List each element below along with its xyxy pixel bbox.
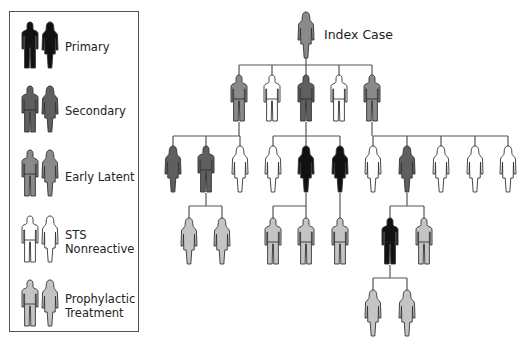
person-male-prophylactic-icon [298, 218, 314, 264]
tree-connectors [173, 58, 508, 290]
person-female-nonreactive-icon [232, 146, 248, 192]
person-female-primary-icon [298, 146, 314, 192]
person-female-nonreactive-icon [467, 146, 483, 192]
person-male-prophylactic-icon [416, 218, 432, 264]
person-male-prophylactic-icon [332, 218, 348, 264]
person-male-early-latent-icon [364, 75, 380, 121]
person-female-nonreactive-icon [500, 146, 516, 192]
legend-item-early-latent: Early Latent [10, 144, 138, 204]
person-male-nonreactive-icon [331, 75, 347, 121]
legend-primary-figures-icon [18, 16, 62, 74]
legend-label: Secondary [65, 104, 126, 118]
person-female-secondary-icon [399, 146, 415, 192]
legend-label-line1: Prophylactic [65, 292, 135, 306]
person-female-prophylactic-icon [399, 290, 415, 336]
person-female-secondary-icon [165, 146, 181, 192]
legend-early-latent-figures-icon [18, 144, 62, 202]
legend-prophylactic-figures-icon [18, 274, 62, 332]
legend-secondary-figures-icon [18, 80, 62, 138]
person-male-early-latent-icon [231, 75, 247, 121]
index-case-label: Index Case [324, 27, 393, 42]
person-female-nonreactive-icon [433, 146, 449, 192]
person-male-prophylactic-icon [265, 218, 281, 264]
legend-box: Primary Secondary Early Latent STS Nonre… [9, 11, 139, 332]
legend-label-line1: STS [65, 228, 87, 242]
legend-label: Primary [65, 40, 109, 54]
person-male-nonreactive-icon [264, 75, 280, 121]
person-male-secondary-icon [298, 75, 314, 121]
person-male-primary-icon [382, 218, 398, 264]
tree-figures [165, 12, 516, 336]
legend-item-prophylactic: Prophylactic Treatment [10, 274, 138, 334]
person-male-secondary-icon [198, 146, 214, 192]
legend-label-line2: Treatment [65, 306, 124, 320]
person-female-nonreactive-icon [365, 146, 381, 192]
person-female-primary-icon [332, 146, 348, 192]
person-female-prophylactic-icon [214, 218, 230, 264]
legend-label: Early Latent [65, 170, 135, 184]
legend-nonreactive-figures-icon [18, 210, 62, 268]
person-female-nonreactive-icon [265, 146, 281, 192]
legend-item-secondary: Secondary [10, 80, 138, 140]
legend-label-line2: Nonreactive [65, 242, 134, 256]
person-female-prophylactic-icon [365, 290, 381, 336]
person-female-prophylactic-icon [181, 218, 197, 264]
legend-item-nonreactive: STS Nonreactive [10, 210, 138, 270]
legend-item-primary: Primary [10, 16, 138, 76]
index-case-figure-icon [298, 12, 314, 58]
